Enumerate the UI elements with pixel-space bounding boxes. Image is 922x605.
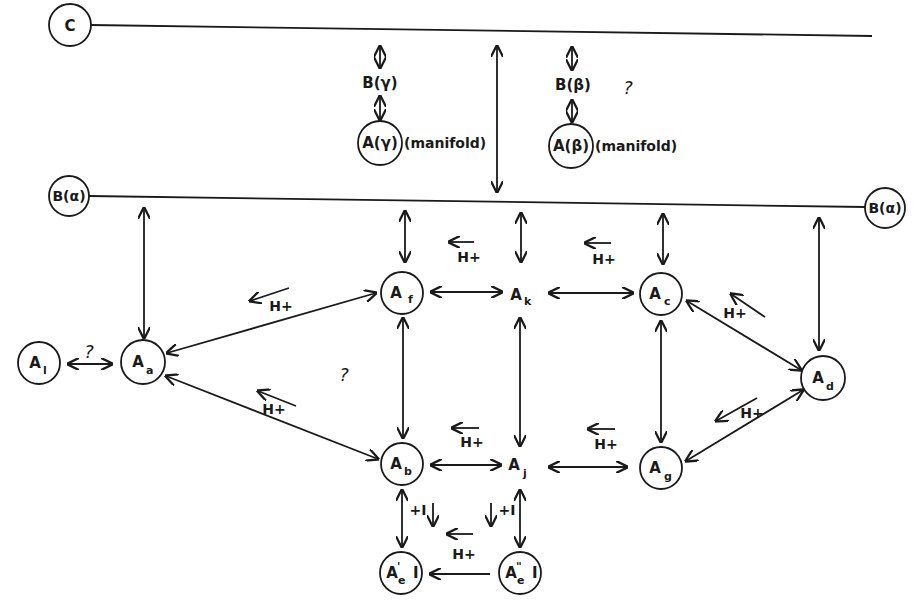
- b-alpha-band-line: [89, 196, 866, 207]
- h-plus-label: H+: [460, 434, 483, 450]
- node-a-a: A a: [121, 340, 165, 384]
- plus-i-label-right: +I: [499, 502, 516, 518]
- node-a-f: A f: [381, 272, 423, 314]
- node-a-b: A b: [381, 443, 423, 485]
- svg-text:j: j: [522, 467, 527, 480]
- svg-text:e: e: [517, 574, 524, 587]
- svg-text:d: d: [826, 380, 834, 393]
- svg-text:(manifold): (manifold): [404, 135, 486, 151]
- node-b-alpha-right: B(α): [865, 188, 905, 228]
- svg-text:(manifold): (manifold): [595, 138, 677, 154]
- node-a-e-double-prime-i: A " e I: [499, 552, 541, 594]
- node-a-g: A g: [640, 447, 682, 489]
- svg-text:e: e: [398, 574, 405, 587]
- svg-text:I: I: [413, 564, 419, 582]
- h-plus-label: H+: [592, 251, 615, 267]
- svg-text:A: A: [812, 369, 824, 387]
- node-a-j: A j: [508, 456, 527, 480]
- h-plus-label: H+: [723, 305, 746, 321]
- svg-text:A: A: [390, 455, 402, 473]
- label-b-gamma: B(γ): [362, 74, 397, 92]
- svg-text:A: A: [132, 353, 144, 371]
- svg-text:a: a: [146, 364, 153, 377]
- arrow-aa-ab: [166, 376, 378, 459]
- svg-text:A: A: [649, 285, 661, 303]
- node-a-d: A d: [801, 356, 845, 400]
- arrow-ag-ad: [686, 390, 803, 461]
- state-diagram: C B(γ) A(γ) (manifold) B(β) ? A(β) (mani…: [0, 0, 922, 605]
- plus-i-label-left: +I: [410, 502, 427, 518]
- question-mark-center: ?: [339, 364, 349, 385]
- node-b-alpha-left: B(α): [49, 176, 89, 216]
- h-plus-label: H+: [269, 298, 292, 314]
- question-mark-al-aa: ?: [84, 341, 94, 362]
- svg-text:A: A: [390, 284, 402, 302]
- node-c: C: [49, 4, 91, 46]
- label-b-beta: B(β): [555, 76, 591, 94]
- h-plus-label: H+: [740, 405, 763, 421]
- question-mark-beta: ?: [623, 77, 633, 98]
- svg-text:c: c: [664, 295, 671, 308]
- h-plus-label: H+: [594, 436, 617, 452]
- svg-text:b: b: [404, 465, 412, 478]
- node-a-gamma: A(γ) (manifold): [358, 121, 486, 165]
- node-a-k: A k: [510, 286, 532, 308]
- svg-text:A: A: [29, 354, 41, 372]
- svg-text:A: A: [510, 286, 522, 304]
- svg-text:f: f: [408, 293, 413, 306]
- svg-text:': ': [397, 560, 400, 573]
- node-a-l: A l: [18, 342, 60, 384]
- svg-text:": ": [516, 560, 522, 573]
- node-a-beta: A(β) (manifold): [549, 124, 677, 168]
- svg-text:C: C: [64, 17, 75, 35]
- svg-text:l: l: [43, 364, 47, 377]
- node-a-e-prime-i: A ' e I: [380, 552, 422, 594]
- svg-text:g: g: [664, 470, 672, 483]
- svg-text:A(γ): A(γ): [362, 134, 398, 152]
- svg-text:A: A: [649, 459, 661, 477]
- h-plus-label: H+: [452, 546, 475, 562]
- svg-text:I: I: [532, 564, 538, 582]
- h-plus-label: H+: [262, 401, 285, 417]
- node-a-c: A c: [640, 273, 682, 315]
- c-band-line: [91, 25, 872, 36]
- h-plus-label: H+: [457, 249, 480, 265]
- svg-text:B(α): B(α): [868, 200, 901, 216]
- svg-text:A: A: [508, 456, 520, 474]
- svg-text:A(β): A(β): [553, 137, 589, 155]
- svg-text:B(α): B(α): [52, 188, 85, 204]
- svg-text:k: k: [524, 295, 532, 308]
